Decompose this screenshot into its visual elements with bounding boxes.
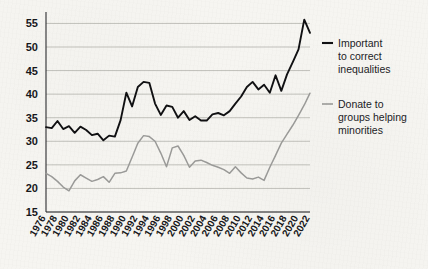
chart-figure: 152025303540455055 197619781980198219841…	[0, 0, 428, 269]
y-tick-label: 20	[26, 182, 38, 194]
y-tick-label: 25	[26, 159, 38, 171]
line-chart: 152025303540455055 197619781980198219841…	[0, 0, 428, 269]
legend-label: minorities	[338, 124, 383, 136]
y-tick-labels-group: 152025303540455055	[26, 17, 38, 218]
y-tick-label: 30	[26, 135, 38, 147]
legend-label: Important	[338, 37, 382, 49]
legend-label: inequalities	[338, 63, 391, 75]
x-tick-labels-group: 1976197819801982198419861988199019921994…	[27, 213, 312, 238]
y-tick-label: 55	[26, 17, 38, 29]
y-tick-label: 50	[26, 41, 38, 53]
legend-label: groups helping	[338, 111, 407, 123]
series-line	[46, 93, 310, 191]
axis-group	[46, 12, 310, 212]
chart-legend: Importantto correctinequalitiesDonate to…	[322, 37, 407, 136]
legend-label: Donate to	[338, 98, 384, 110]
y-tick-label: 35	[26, 112, 38, 124]
series-line	[46, 20, 310, 141]
legend-label: to correct	[338, 50, 382, 62]
y-tick-label: 45	[26, 65, 38, 77]
y-tick-label: 40	[26, 88, 38, 100]
